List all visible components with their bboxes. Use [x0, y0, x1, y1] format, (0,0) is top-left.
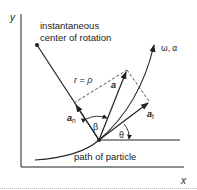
x-axis-label: x — [180, 175, 187, 186]
accel-label: a — [111, 80, 116, 90]
theta-label: θ — [119, 130, 124, 140]
diagram-canvas: y x instantaneous center of rotation r =… — [0, 0, 197, 190]
beta-arc — [86, 116, 107, 119]
theta-arc — [124, 124, 129, 139]
at-label: at — [147, 109, 154, 120]
center-label-line1: instantaneous — [40, 20, 99, 31]
dashed-line-at — [127, 70, 149, 101]
center-label-line2: center of rotation — [40, 32, 111, 43]
beta-label: β — [93, 122, 98, 132]
y-axis-label: y — [9, 12, 16, 23]
radius-label: r = ρ — [74, 75, 92, 85]
omega-alpha-label: ω, α — [161, 43, 177, 53]
an-label: an — [67, 113, 76, 124]
path-label: path of particle — [74, 151, 136, 162]
path-curve — [35, 45, 154, 160]
particle-point — [97, 138, 101, 142]
